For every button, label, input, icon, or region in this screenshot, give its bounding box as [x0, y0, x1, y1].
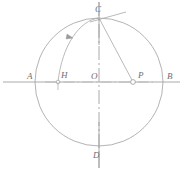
arc-arrowhead-icon — [66, 34, 73, 39]
label-point-b: B — [167, 71, 173, 81]
chord-c-to-p — [99, 18, 133, 82]
label-point-a: A — [26, 71, 33, 81]
label-point-p: P — [137, 70, 144, 80]
label-point-o: O — [91, 71, 98, 81]
label-point-c: C — [95, 4, 102, 14]
label-point-d: D — [92, 150, 100, 160]
label-point-h: H — [60, 70, 68, 80]
geometry-figure-svg: A H O P B C D — [0, 0, 183, 170]
point-marker-p — [131, 80, 136, 85]
geometry-diagram: A H O P B C D — [0, 0, 183, 170]
